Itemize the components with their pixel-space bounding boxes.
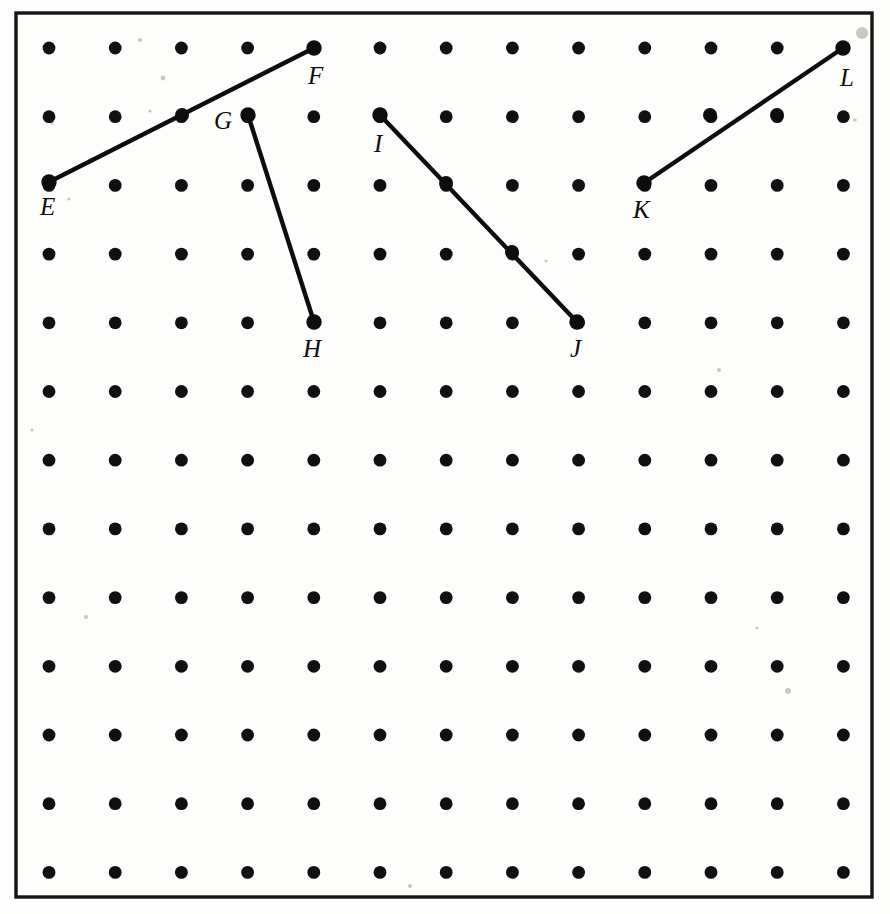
grid-dot [109, 454, 122, 467]
segment-gh [248, 115, 314, 322]
grid-dot [440, 523, 453, 536]
grid-dot [638, 866, 651, 879]
grid-dot [109, 797, 122, 810]
grid-dot [109, 179, 122, 192]
segment-interior-dot [770, 108, 784, 122]
grid-dot [506, 523, 519, 536]
grid-dot [705, 591, 718, 604]
paper-speck [84, 615, 88, 619]
point-label-e: E [39, 193, 55, 220]
grid-dot [506, 660, 519, 673]
grid-dot [43, 866, 56, 879]
grid-dot [837, 729, 850, 742]
grid-dot [241, 660, 254, 673]
grid-dot [506, 110, 519, 123]
dot-grid-figure: EFGHIJKL [0, 0, 890, 914]
grid-dot [572, 385, 585, 398]
paper-speck [756, 627, 759, 630]
grid-dot [837, 248, 850, 261]
segment-endpoint-ef [41, 174, 56, 189]
grid-dot [705, 316, 718, 329]
grid-dot [175, 248, 188, 261]
grid-dot [771, 797, 784, 810]
paper-speck [408, 884, 412, 888]
grid-dot [771, 866, 784, 879]
grid-dot [837, 866, 850, 879]
grid-dot [837, 179, 850, 192]
grid-dot [440, 729, 453, 742]
grid-dot [307, 179, 320, 192]
grid-dot [771, 523, 784, 536]
point-label-j: J [570, 335, 583, 362]
grid-dot [175, 454, 188, 467]
grid-dot [307, 248, 320, 261]
grid-dot [506, 179, 519, 192]
grid-dot [175, 866, 188, 879]
grid-dot [43, 248, 56, 261]
grid-dot [771, 729, 784, 742]
grid-dot [440, 660, 453, 673]
grid-dot [109, 523, 122, 536]
segment-kl [644, 48, 843, 183]
grid-dot [506, 316, 519, 329]
grid-dot [837, 660, 850, 673]
grid-dot [109, 316, 122, 329]
paper-speck [545, 260, 548, 263]
point-label-i: I [373, 130, 384, 157]
grid-dot [241, 797, 254, 810]
grid-dot [638, 454, 651, 467]
grid-dot [572, 523, 585, 536]
grid-dot [837, 797, 850, 810]
grid-dot [43, 110, 56, 123]
grid-dot [241, 523, 254, 536]
grid-dot [771, 179, 784, 192]
grid-dot [705, 660, 718, 673]
grid-dot [307, 729, 320, 742]
grid-dot [638, 248, 651, 261]
grid-dot [572, 248, 585, 261]
point-label-h: H [302, 335, 323, 362]
grid-dot [43, 729, 56, 742]
grid-dot [175, 316, 188, 329]
grid-dot [705, 385, 718, 398]
grid-dot [109, 660, 122, 673]
grid-dot [307, 110, 320, 123]
grid-dot [440, 316, 453, 329]
segment-endpoint-ij [569, 314, 584, 329]
grid-dot [43, 454, 56, 467]
grid-dot [638, 523, 651, 536]
grid-dot [109, 248, 122, 261]
grid-dot [771, 248, 784, 261]
figure-canvas: EFGHIJKL [0, 0, 890, 914]
grid-dot [43, 42, 56, 55]
segment-endpoint-layer [41, 40, 850, 329]
grid-dot [705, 797, 718, 810]
grid-dot [771, 316, 784, 329]
grid-dot [705, 248, 718, 261]
grid-dot [440, 385, 453, 398]
grid-dot [440, 110, 453, 123]
grid-dot [241, 42, 254, 55]
grid-dot [307, 797, 320, 810]
grid-dot [307, 660, 320, 673]
segment-interior-dot [439, 176, 453, 190]
grid-dot [374, 866, 387, 879]
grid-dot [241, 316, 254, 329]
segment-interior-dot [175, 108, 189, 122]
grid-dot [374, 42, 387, 55]
grid-dot [837, 110, 850, 123]
grid-dot [307, 866, 320, 879]
grid-dot [705, 42, 718, 55]
grid-dot [175, 660, 188, 673]
grid-dot [374, 179, 387, 192]
grid-dot [771, 385, 784, 398]
grid-dot [440, 591, 453, 604]
segment-interior-dot [703, 108, 717, 122]
paper-speck [785, 688, 791, 694]
segment-endpoint-gh [240, 107, 255, 122]
grid-dot [43, 385, 56, 398]
segment-endpoint-ef [306, 40, 321, 55]
grid-dot [771, 42, 784, 55]
grid-dot [241, 248, 254, 261]
paper-speck [717, 368, 721, 372]
